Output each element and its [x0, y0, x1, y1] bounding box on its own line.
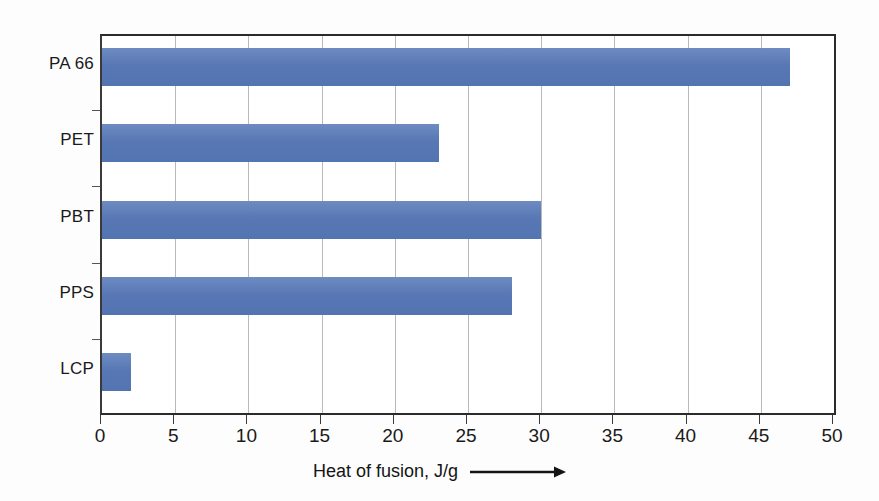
x-axis-tick-45: [759, 415, 760, 424]
y-axis-tick-1: [92, 186, 100, 187]
bar-pps[interactable]: [102, 277, 512, 315]
x-axis-tick-5: [173, 415, 174, 424]
x-axis-tick-label-0: 0: [95, 425, 106, 447]
bar-lcp[interactable]: [102, 353, 131, 391]
y-axis-label-pet: PET: [6, 130, 94, 150]
x-axis: 05101520253035404550: [100, 415, 836, 455]
x-axis-tick-label-30: 30: [529, 425, 550, 447]
bar-pa-66[interactable]: [102, 48, 790, 86]
gridline-45: [761, 36, 762, 413]
x-axis-tick-label-45: 45: [748, 425, 769, 447]
x-axis-tick-20: [393, 415, 394, 424]
gridline-30: [541, 36, 542, 413]
y-axis-label-pa-66: PA 66: [6, 54, 94, 74]
bar-chart-figure: PA 66PETPBTPPSLCP 05101520253035404550 H…: [0, 0, 879, 501]
x-axis-title: Heat of fusion, J/g: [0, 461, 879, 482]
x-axis-tick-40: [686, 415, 687, 424]
plot-area: [100, 34, 836, 415]
x-axis-tick-label-20: 20: [382, 425, 403, 447]
x-axis-tick-25: [466, 415, 467, 424]
y-axis-label-lcp: LCP: [6, 359, 94, 379]
x-axis-title-label: Heat of fusion, J/g: [313, 461, 458, 482]
y-axis-category-labels: PA 66PETPBTPPSLCP: [0, 34, 94, 415]
gridline-40: [688, 36, 689, 413]
y-axis-tick-3: [92, 339, 100, 340]
x-axis-tick-label-40: 40: [675, 425, 696, 447]
y-axis-label-pps: PPS: [6, 283, 94, 303]
x-axis-tick-label-25: 25: [455, 425, 476, 447]
x-axis-tick-0: [100, 415, 101, 424]
x-axis-tick-label-10: 10: [236, 425, 257, 447]
right-arrow-icon: [470, 465, 566, 479]
x-axis-tick-label-15: 15: [309, 425, 330, 447]
bar-pbt[interactable]: [102, 201, 541, 239]
y-axis-tick-2: [92, 263, 100, 264]
bar-pet[interactable]: [102, 124, 439, 162]
x-axis-tick-label-5: 5: [168, 425, 179, 447]
x-axis-tick-label-50: 50: [821, 425, 842, 447]
x-axis-tick-30: [539, 415, 540, 424]
x-axis-tick-label-35: 35: [602, 425, 623, 447]
y-axis-label-pbt: PBT: [6, 207, 94, 227]
gridline-35: [614, 36, 615, 413]
x-axis-tick-10: [246, 415, 247, 424]
x-axis-tick-50: [832, 415, 833, 424]
x-axis-tick-35: [612, 415, 613, 424]
y-axis-tick-0: [92, 110, 100, 111]
x-axis-tick-15: [320, 415, 321, 424]
